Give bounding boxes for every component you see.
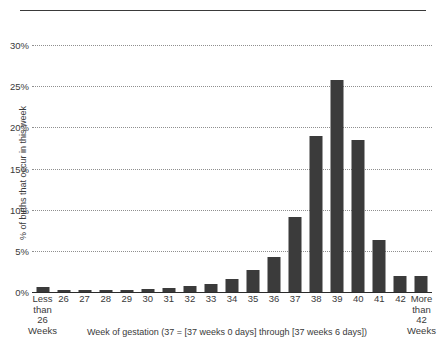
- y-tick-label-15%: 15%: [10, 163, 29, 174]
- bar[interactable]: [162, 288, 175, 292]
- bar[interactable]: [141, 289, 154, 292]
- bar[interactable]: [394, 276, 407, 292]
- bar[interactable]: [415, 276, 428, 292]
- bar-slot: [348, 40, 369, 292]
- bar-slot: [137, 40, 158, 292]
- bar[interactable]: [120, 290, 133, 292]
- gestation-week-births-bar-chart: % of births that occur in this week 0%5%…: [0, 0, 444, 342]
- bar-slot: [369, 40, 390, 292]
- x-axis-title-wrapper: Week of gestation (37 = [37 weeks 0 days…: [0, 327, 444, 337]
- y-axis-tick-labels: 0%5%10%15%20%25%30%: [0, 0, 32, 342]
- bar[interactable]: [289, 217, 302, 292]
- bar-slot: [200, 40, 221, 292]
- y-tick-label-25%: 25%: [10, 81, 29, 92]
- bar-slot: [306, 40, 327, 292]
- bar-slot: [95, 40, 116, 292]
- bar-slot: [285, 40, 306, 292]
- bar[interactable]: [36, 287, 49, 292]
- bar-slot: [327, 40, 348, 292]
- bar-series: [32, 40, 432, 292]
- bar[interactable]: [268, 257, 281, 292]
- bar[interactable]: [183, 286, 196, 292]
- bar[interactable]: [247, 270, 260, 292]
- bar[interactable]: [78, 290, 91, 292]
- bar[interactable]: [331, 80, 344, 292]
- bar[interactable]: [310, 136, 323, 292]
- x-axis-title: Week of gestation (37 = [37 weeks 0 days…: [87, 327, 367, 337]
- bar[interactable]: [204, 284, 217, 292]
- bar-slot: [74, 40, 95, 292]
- y-tick-label-30%: 30%: [10, 40, 29, 51]
- y-tick-label-10%: 10%: [10, 204, 29, 215]
- bar[interactable]: [373, 240, 386, 292]
- bar[interactable]: [99, 290, 112, 292]
- bar-slot: [264, 40, 285, 292]
- bar[interactable]: [225, 279, 238, 292]
- y-tick-label-20%: 20%: [10, 122, 29, 133]
- bar-slot: [116, 40, 137, 292]
- bar-slot: [53, 40, 74, 292]
- bar-slot: [411, 40, 432, 292]
- bar-slot: [179, 40, 200, 292]
- bar[interactable]: [57, 290, 70, 292]
- bar-slot: [390, 40, 411, 292]
- bar[interactable]: [352, 140, 365, 292]
- bar-slot: [221, 40, 242, 292]
- bar-slot: [158, 40, 179, 292]
- bar-slot: [32, 40, 53, 292]
- top-horizontal-rule: [20, 10, 426, 11]
- bar-slot: [243, 40, 264, 292]
- y-tick-label-5%: 5%: [15, 245, 29, 256]
